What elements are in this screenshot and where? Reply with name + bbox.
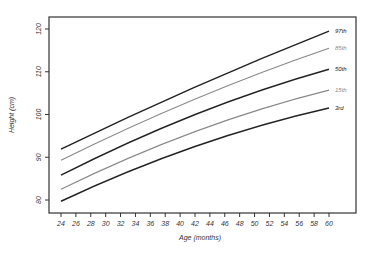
y-axis-label: Height (cm) — [8, 97, 16, 133]
y-tick-label: 100 — [35, 109, 42, 121]
height-for-age-chart: 24262830323436384042444648505254565860 8… — [0, 0, 375, 257]
y-axis: 8090100110120 — [35, 23, 49, 204]
x-tick-label: 60 — [325, 220, 333, 227]
series-line-50th — [61, 69, 329, 175]
x-tick-label: 48 — [236, 220, 244, 227]
plot-frame — [49, 17, 356, 213]
x-tick-label: 42 — [191, 220, 199, 227]
series-line-15th — [61, 90, 329, 189]
series-label-85th: 85th — [335, 45, 347, 51]
x-tick-label: 24 — [56, 220, 65, 227]
series-lines: 97th85th50th15th3rd — [61, 28, 347, 201]
x-tick-label: 56 — [295, 220, 303, 227]
x-tick-label: 46 — [221, 220, 229, 227]
series-label-3rd: 3rd — [335, 105, 344, 111]
x-tick-label: 36 — [146, 220, 154, 227]
x-tick-label: 44 — [206, 220, 214, 227]
x-tick-label: 54 — [280, 220, 288, 227]
y-tick-label: 80 — [35, 196, 42, 204]
series-label-50th: 50th — [335, 66, 347, 72]
series-label-15th: 15th — [335, 87, 347, 93]
x-tick-label: 26 — [71, 220, 80, 227]
y-tick-label: 120 — [35, 23, 42, 35]
x-tick-label: 38 — [161, 220, 169, 227]
y-tick-label: 90 — [35, 153, 42, 161]
x-tick-label: 40 — [176, 220, 184, 227]
series-line-85th — [61, 48, 329, 160]
x-tick-label: 28 — [86, 220, 95, 227]
x-tick-label: 32 — [117, 220, 125, 227]
x-axis-label: Age (months) — [178, 234, 221, 242]
x-axis: 24262830323436384042444648505254565860 — [56, 213, 333, 227]
y-tick-label: 110 — [35, 66, 42, 77]
x-tick-label: 34 — [132, 220, 140, 227]
x-tick-label: 58 — [310, 220, 318, 227]
x-tick-label: 52 — [266, 220, 274, 227]
x-tick-label: 50 — [251, 220, 259, 227]
series-label-97th: 97th — [335, 28, 347, 34]
x-tick-label: 30 — [102, 220, 110, 227]
